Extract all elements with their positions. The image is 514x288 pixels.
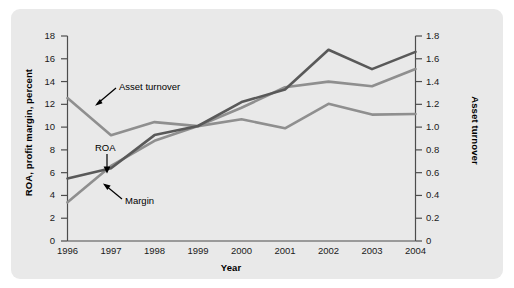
annotation-label-margin: Margin [125, 195, 154, 206]
y-right-tick-label: 0.2 [426, 212, 456, 223]
y-right-tick-label: 1.8 [426, 30, 456, 41]
annotation-arrow-margin [103, 183, 122, 199]
series-line-asset-turnover [68, 98, 416, 135]
annotation-arrow-asset-turnover [95, 88, 116, 106]
x-tick-label: 1996 [48, 245, 88, 256]
x-axis-title: Year [11, 262, 451, 273]
plot-area: 18 16 14 12 10 8 6 4 2 0 1.8 1.6 1.4 1.2… [11, 9, 503, 279]
x-tick-label: 1999 [178, 245, 218, 256]
x-tick-label: 1997 [91, 245, 131, 256]
annotation-label-roa: ROA [95, 142, 116, 153]
y-right-tick-label: 1.4 [426, 76, 456, 87]
chart-panel: 18 16 14 12 10 8 6 4 2 0 1.8 1.6 1.4 1.2… [11, 9, 503, 279]
annotation-label-asset-turnover: Asset turnover [119, 81, 180, 92]
y-right-tick-label: 1.2 [426, 98, 456, 109]
y-right-tick-label: 0.8 [426, 144, 456, 155]
y-right-tick-label: 0.6 [426, 167, 456, 178]
y-right-tick-label: 1.6 [426, 53, 456, 64]
y-left-axis-title: ROA, profit margin, percent [23, 53, 34, 213]
y-right-tick-label: 1.0 [426, 121, 456, 132]
y-left-ticks [61, 36, 68, 241]
y-right-tick-label: 0.4 [426, 189, 456, 200]
y-left-tick-label: 18 [29, 30, 55, 41]
x-tick-label: 2000 [222, 245, 262, 256]
x-tick-label: 1998 [135, 245, 175, 256]
y-right-ticks [416, 36, 423, 241]
y-right-axis-title: Asset turnover [470, 71, 481, 191]
x-tick-label: 2003 [352, 245, 392, 256]
y-left-tick-label: 2 [29, 212, 55, 223]
x-tick-label: 2001 [265, 245, 305, 256]
x-tick-label: 2002 [309, 245, 349, 256]
x-tick-label: 2004 [396, 245, 436, 256]
series-line-roa [68, 50, 416, 179]
